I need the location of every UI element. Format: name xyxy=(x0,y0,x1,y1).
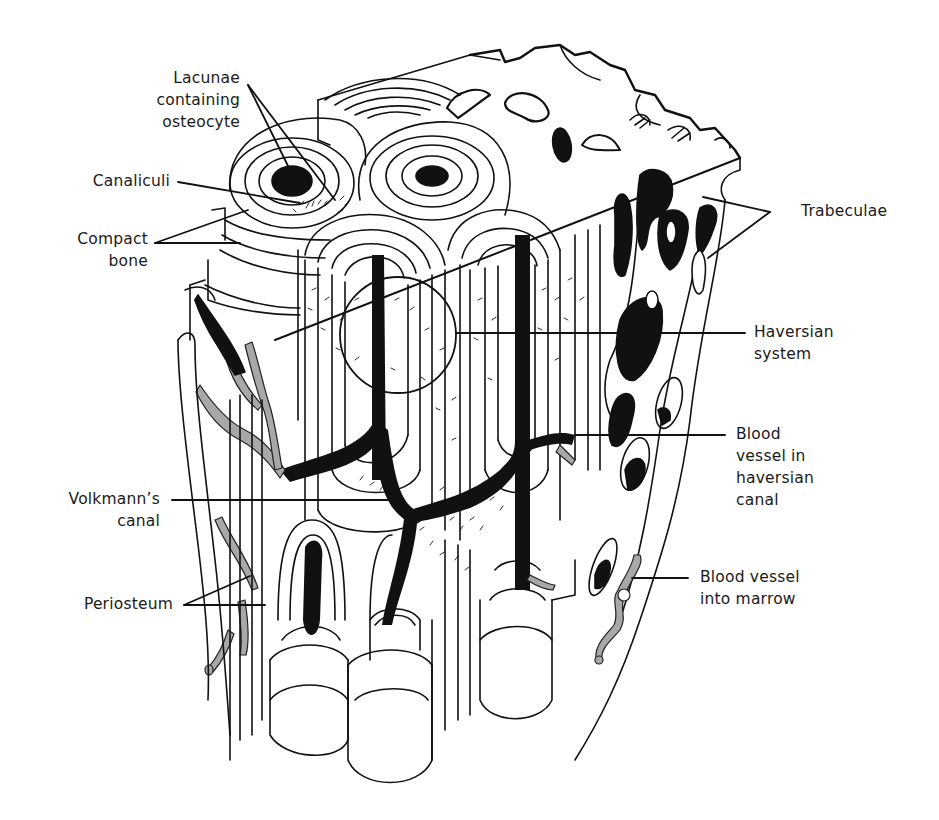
label-trabeculae: Trabeculae xyxy=(801,200,887,222)
label-lacunae: Lacunae containing osteocyte xyxy=(110,67,240,133)
osteon-upper-left xyxy=(190,118,366,340)
label-canaliculi: Canaliculi xyxy=(40,170,170,192)
label-haversian-system: Haversian system xyxy=(754,321,834,365)
bone-structure-diagram: Lacunae containing osteocyte Canaliculi … xyxy=(0,0,939,820)
osteon-upper-middle xyxy=(359,122,510,220)
label-volkmanns-canal: Volkmann’s canal xyxy=(30,488,160,532)
label-compact-bone: Compact bone xyxy=(20,228,148,272)
spongy-bone xyxy=(575,170,725,760)
label-periosteum: Periosteum xyxy=(40,593,173,615)
label-blood-vessel-marrow: Blood vessel into marrow xyxy=(700,566,800,610)
label-blood-vessel-haversian: Blood vessel in haversian canal xyxy=(736,423,814,511)
